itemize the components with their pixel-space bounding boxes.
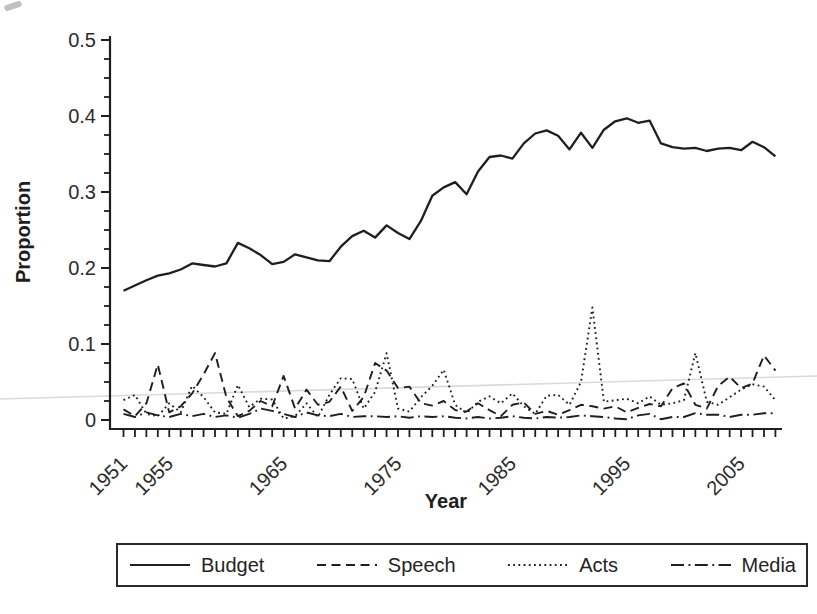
x-tick-label: 1965 <box>244 452 291 499</box>
x-tick-label: 1985 <box>473 452 520 499</box>
series-line-budget <box>124 118 776 290</box>
x-tick-label: 1995 <box>588 452 635 499</box>
series-line-speech <box>124 353 776 416</box>
dotted-line-icon <box>506 558 570 572</box>
y-tick-label: 0.3 <box>68 181 96 203</box>
x-axis-title: Year <box>425 490 467 512</box>
x-tick-label: 2005 <box>702 452 749 499</box>
legend-item-budget: Budget <box>128 554 264 577</box>
legend-label-speech: Speech <box>388 554 456 577</box>
legend-item-media: Media <box>669 554 796 577</box>
y-tick-label: 0.1 <box>68 333 96 355</box>
y-tick-label: 0 <box>85 409 96 431</box>
legend-label-media: Media <box>742 554 796 577</box>
chart-svg: 00.10.20.30.40.5195119551965197519851995… <box>0 0 817 540</box>
legend-item-speech: Speech <box>315 554 456 577</box>
dashed-line-icon <box>315 558 379 572</box>
chart-page: 00.10.20.30.40.5195119551965197519851995… <box>0 0 817 614</box>
y-tick-label: 0.4 <box>68 105 96 127</box>
solid-line-icon <box>128 558 192 572</box>
series-line-media <box>124 409 776 420</box>
legend-label-acts: Acts <box>579 554 618 577</box>
legend: Budget Speech Acts Media <box>116 543 808 587</box>
legend-item-acts: Acts <box>506 554 618 577</box>
y-tick-label: 0.2 <box>68 257 96 279</box>
axes <box>110 36 782 429</box>
x-tick-label: 1951 <box>84 452 131 499</box>
series-line-acts <box>124 308 776 419</box>
y-tick-label: 0.5 <box>68 29 96 51</box>
x-tick-label: 1975 <box>359 452 406 499</box>
legend-label-budget: Budget <box>201 554 264 577</box>
dash-dot-line-icon <box>669 558 733 572</box>
y-axis-title: Proportion <box>12 181 34 283</box>
x-tick-label: 1955 <box>130 452 177 499</box>
